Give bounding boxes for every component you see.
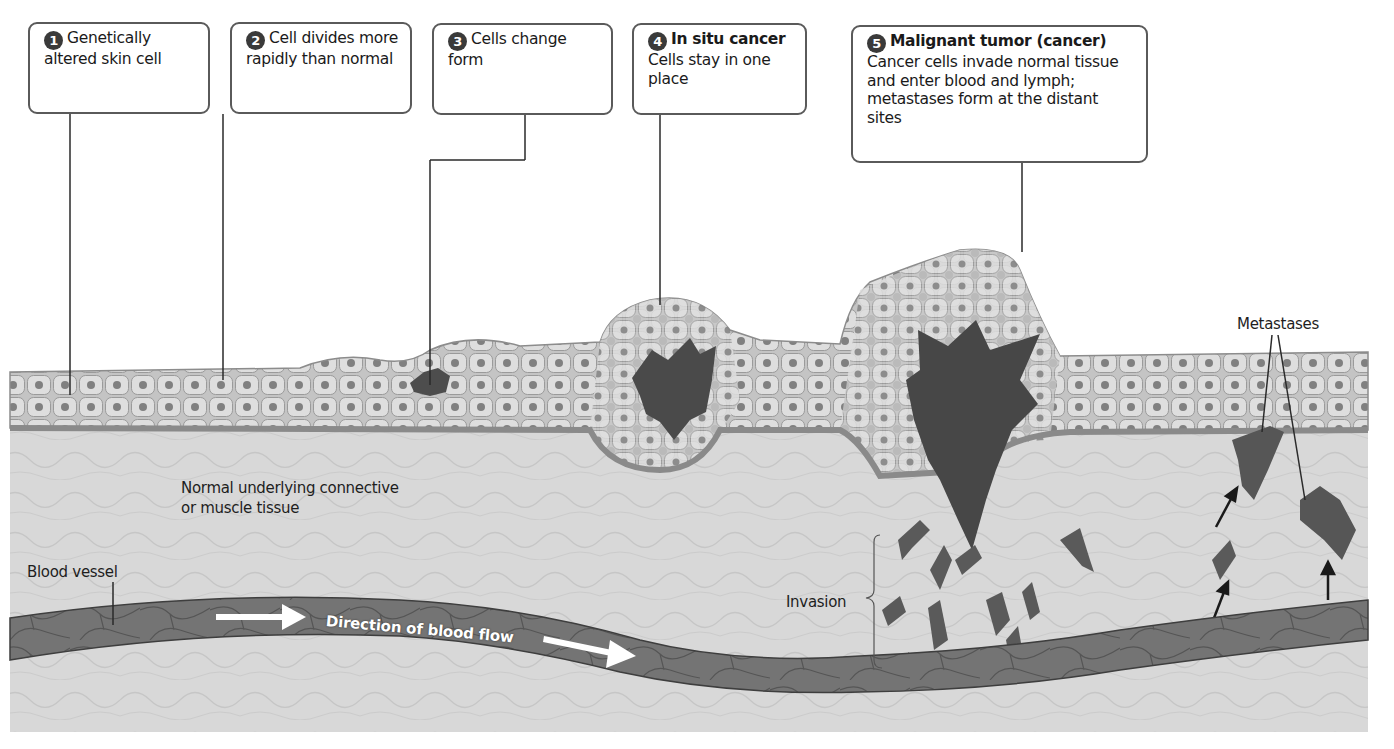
step-1-number-badge: 1 [44,31,63,50]
step-5-number-badge: 5 [867,34,886,53]
blood-vessel-label: Blood vessel [27,563,118,582]
step-4-callout: 4In situ cancer Cells stay in one place [632,23,807,115]
step-5-callout: 5Malignant tumor (cancer) Cancer cells i… [851,25,1148,163]
metastases-label: Metastases [1237,315,1319,334]
cancer-progression-diagram: 1Genetically altered skin cell 2Cell div… [0,0,1394,749]
invasion-label: Invasion [786,593,846,612]
step-1-callout: 1Genetically altered skin cell [28,22,210,114]
step-3-callout: 3Cells change form [432,23,613,115]
step-4-text: Cells stay in one place [648,51,771,88]
step-2-number-badge: 2 [246,31,265,50]
step-2-callout: 2Cell divides more rapidly than normal [230,22,412,114]
step-5-text: Cancer cells invade normal tissue and en… [867,53,1119,127]
step-4-title: In situ cancer [671,30,785,48]
step-5-title: Malignant tumor (cancer) [890,32,1106,50]
step-3-number-badge: 3 [448,32,467,51]
step-2-text: Cell divides more rapidly than normal [246,29,398,68]
connective-tissue-label-line2: or muscle tissue [181,499,299,518]
step-4-number-badge: 4 [648,32,667,51]
connective-tissue-label-line1: Normal underlying connective [181,479,399,498]
